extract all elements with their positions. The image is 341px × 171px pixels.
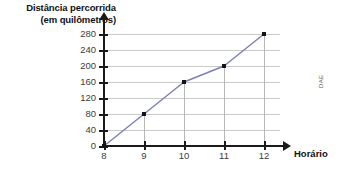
y-axis-tick-label: 280: [62, 29, 96, 39]
y-axis-tick: [99, 66, 108, 68]
x-axis-label: Horário: [294, 148, 328, 159]
data-point-marker: [262, 32, 266, 36]
chart-screenshot: Distância percorrida (em quilômetros) Ho…: [0, 0, 341, 171]
y-axis-tick: [99, 130, 108, 132]
x-axis-tick-label: 12: [252, 151, 276, 161]
x-axis-tick: [184, 141, 186, 150]
x-axis-tick-label: 9: [132, 151, 156, 161]
y-axis-tick-label: 0: [62, 141, 96, 151]
y-axis-tick: [99, 114, 108, 116]
y-axis-tick-label: 40: [62, 125, 96, 135]
y-axis-tick-label: 80: [62, 109, 96, 119]
y-axis-arrow-icon: [99, 12, 109, 20]
data-point-marker: [182, 80, 186, 84]
x-axis-tick-label: 8: [92, 151, 116, 161]
y-axis-tick-label: 160: [62, 77, 96, 87]
y-axis-tick-label: 120: [62, 93, 96, 103]
y-axis-tick: [99, 50, 108, 52]
data-point-marker: [142, 112, 146, 116]
y-axis-tick: [99, 82, 108, 84]
x-axis-tick-label: 10: [172, 151, 196, 161]
data-point-marker: [222, 64, 226, 68]
data-point-marker: [102, 144, 106, 148]
y-axis-tick: [99, 34, 108, 36]
credit-label: DAE: [318, 75, 324, 88]
y-axis-tick-label: 200: [62, 61, 96, 71]
data-series-line: [104, 24, 280, 146]
x-axis-tick: [264, 141, 266, 150]
y-axis-tick-label: 240: [62, 45, 96, 55]
x-axis-tick-label: 11: [212, 151, 236, 161]
x-axis-tick: [144, 141, 146, 150]
x-axis-tick: [224, 141, 226, 150]
x-axis-arrow-icon: [283, 141, 291, 151]
y-axis-tick: [99, 98, 108, 100]
